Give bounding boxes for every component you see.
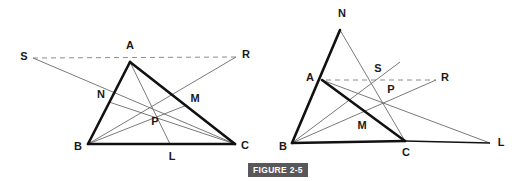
right-side-BC (292, 141, 405, 143)
left-label-B: B (74, 140, 82, 152)
left-label-C: C (241, 139, 249, 151)
left-dashed-line-SR (33, 57, 236, 58)
right-label-S: S (374, 62, 381, 74)
left-line-B-to-M (88, 105, 187, 144)
right-label-N: N (338, 7, 346, 19)
left-label-S: S (20, 50, 27, 62)
right-label-B: B (279, 140, 287, 152)
left-label-L: L (169, 150, 176, 162)
right-label-M: M (357, 119, 366, 131)
right-label-C: C (402, 146, 410, 158)
left-line-C-to-N (109, 102, 235, 144)
right-label-P: P (387, 83, 394, 95)
right-line-N-to-C (340, 30, 405, 141)
figure-container: A B C N M P L S R N A B (0, 0, 529, 181)
figure-caption-text: FIGURE 2-5 (253, 166, 303, 175)
left-label-P: P (151, 115, 158, 127)
figure-caption-badge: FIGURE 2-5 (248, 163, 308, 177)
left-side-AC (130, 62, 235, 144)
geometry-figure-svg: A B C N M P L S R N A B (0, 0, 529, 181)
left-label-M: M (190, 92, 199, 104)
left-label-A: A (126, 39, 134, 51)
right-line-C-to-L (405, 141, 490, 143)
right-diagram-group: N A B C M P S R L (279, 7, 505, 158)
left-line-A-to-L (130, 62, 170, 144)
right-label-R: R (441, 71, 449, 83)
right-line-A-to-L (322, 80, 490, 143)
left-diagram-group: A B C N M P L S R (20, 39, 250, 162)
left-label-R: R (242, 48, 250, 60)
left-label-N: N (97, 88, 105, 100)
right-label-A: A (306, 71, 314, 83)
right-label-L: L (498, 136, 505, 148)
